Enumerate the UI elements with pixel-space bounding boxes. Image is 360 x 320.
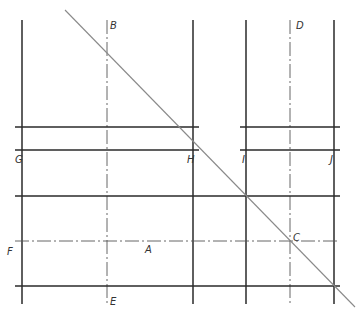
label-b: B xyxy=(110,20,117,31)
diagonal-line xyxy=(65,10,355,307)
label-f: F xyxy=(7,246,13,257)
label-h: H xyxy=(187,154,195,165)
label-c: C xyxy=(293,232,300,243)
label-i: I xyxy=(242,154,245,165)
technical-drawing: B D G H I J F A C E xyxy=(0,0,360,320)
label-d: D xyxy=(296,20,304,31)
label-a: A xyxy=(144,244,152,255)
label-j: J xyxy=(328,154,333,165)
label-g: G xyxy=(15,154,23,165)
label-e: E xyxy=(110,296,117,307)
